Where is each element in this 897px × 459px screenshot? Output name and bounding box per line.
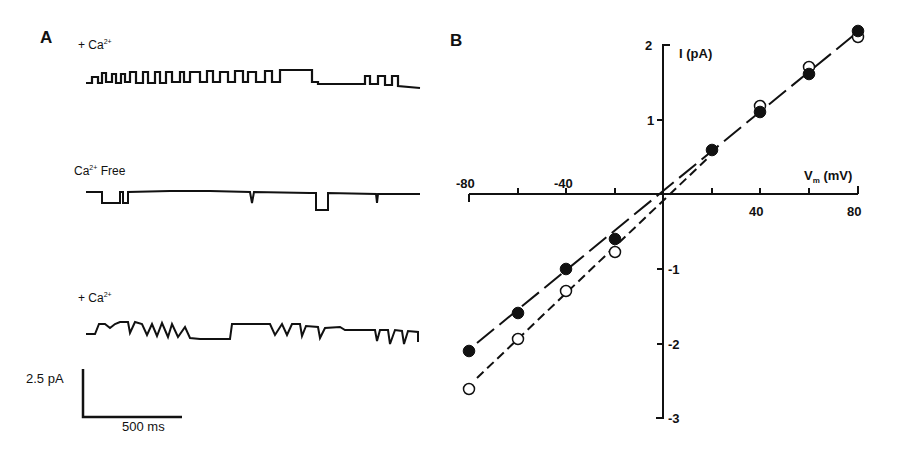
panel-b-letter: B bbox=[450, 31, 462, 50]
x-tick-label-neg40: -40 bbox=[554, 176, 573, 191]
x-tick-label-80: 80 bbox=[847, 204, 861, 219]
y-axis-title: I (pA) bbox=[679, 46, 712, 61]
open-circle-marker bbox=[561, 286, 572, 297]
y-tick-label-2: 2 bbox=[645, 38, 652, 53]
y-tick-label-1: 1 bbox=[647, 113, 654, 128]
filled-circle-marker bbox=[560, 263, 572, 275]
filled-circle-marker bbox=[463, 345, 475, 357]
scale-bar bbox=[83, 369, 182, 417]
x-axis-title-unit: (mV) bbox=[820, 168, 853, 183]
x-axis-title-v: V bbox=[804, 168, 813, 183]
trace-3-ca bbox=[86, 322, 418, 344]
x-axis-title-sub: m bbox=[813, 176, 820, 185]
x-axis-title: Vm (mV) bbox=[804, 168, 852, 185]
open-circle-marker bbox=[513, 334, 524, 345]
filled-circle-marker bbox=[609, 233, 621, 245]
filled-circle-marker bbox=[512, 307, 524, 319]
trace-1-ca bbox=[86, 70, 420, 88]
filled-circle-marker bbox=[754, 106, 766, 118]
y-tick-label-neg3: -3 bbox=[668, 411, 680, 426]
trace-2-ca-free bbox=[86, 191, 420, 210]
open-circle-marker bbox=[464, 384, 475, 395]
open-circle-marker bbox=[610, 247, 621, 258]
x-tick-label-40: 40 bbox=[749, 204, 763, 219]
filled-circle-marker bbox=[706, 144, 718, 156]
y-tick-label-neg2: -2 bbox=[668, 337, 680, 352]
filled-circle-marker bbox=[852, 25, 864, 37]
filled-circle-marker bbox=[803, 68, 815, 80]
fit-line-ca bbox=[477, 35, 854, 343]
y-axis bbox=[656, 45, 670, 418]
y-tick-label-neg1: -1 bbox=[668, 262, 680, 277]
x-tick-label-neg80: -80 bbox=[456, 176, 475, 191]
figure-canvas: B -80 -40 40 80 2 1 -1 -2 -3 I (pA) Vm (… bbox=[0, 0, 897, 459]
